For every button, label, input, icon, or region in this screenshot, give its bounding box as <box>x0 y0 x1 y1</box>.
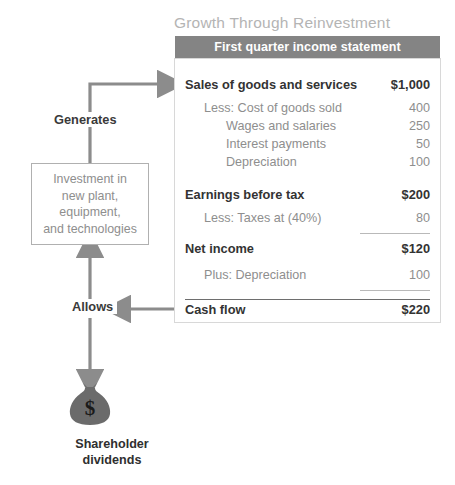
row-value: $1,000 <box>391 77 430 92</box>
row-label: Cash flow <box>185 302 245 317</box>
row-label: Earnings before tax <box>185 187 304 202</box>
row-value: $120 <box>402 241 430 256</box>
dividends-caption: Shareholder dividends <box>58 436 166 468</box>
investment-node: Investment in new plant, equipment, and … <box>31 163 149 245</box>
investment-line-1: new plant, <box>62 188 118 205</box>
dividends-line-0: Shareholder <box>58 436 166 452</box>
row-value: 100 <box>409 268 430 282</box>
row-label: Depreciation <box>226 155 297 169</box>
row-value: 250 <box>409 119 430 133</box>
statement-header: First quarter income statement <box>175 36 440 58</box>
investment-line-3: and technologies <box>43 221 137 238</box>
row-label: Sales of goods and services <box>185 77 357 92</box>
total-rule <box>185 299 430 300</box>
row-label: Less: Cost of goods sold <box>204 101 342 115</box>
row-value: $220 <box>402 302 430 317</box>
table-row: Less: Cost of goods sold 400 <box>174 99 441 116</box>
row-label: Interest payments <box>226 137 326 151</box>
table-row: Net income $120 <box>174 240 441 257</box>
table-row: Depreciation 100 <box>174 153 441 170</box>
dividends-line-1: dividends <box>58 452 166 468</box>
row-value: $200 <box>402 187 430 202</box>
table-row: Sales of goods and services $1,000 <box>174 76 441 93</box>
table-row: Plus: Depreciation 100 <box>174 266 441 283</box>
investment-line-2: equipment, <box>59 204 120 221</box>
diagram-canvas: Growth Through Reinvestment First quarte… <box>0 0 455 485</box>
row-label: Plus: Depreciation <box>204 268 306 282</box>
table-row: Less: Taxes at (40%) 80 <box>174 209 441 226</box>
row-label: Less: Taxes at (40%) <box>204 211 321 225</box>
table-row: Cash flow $220 <box>174 301 441 318</box>
svg-text:$: $ <box>85 396 96 420</box>
table-row: Interest payments 50 <box>174 135 441 152</box>
table-row: Wages and salaries 250 <box>174 117 441 134</box>
flow-label-generates: Generates <box>50 112 121 127</box>
income-statement-rows: Sales of goods and services $1,000 Less:… <box>174 58 441 323</box>
subtotal-rule <box>360 233 430 234</box>
flow-label-allows: Allows <box>68 299 117 314</box>
money-bag-icon: $ <box>60 380 120 426</box>
row-label: Wages and salaries <box>226 119 336 133</box>
page-title: Growth Through Reinvestment <box>174 14 454 34</box>
row-label: Net income <box>185 241 254 256</box>
investment-line-0: Investment in <box>53 171 127 188</box>
row-value: 100 <box>409 155 430 169</box>
table-row: Earnings before tax $200 <box>174 186 441 203</box>
subtotal-rule <box>360 290 430 291</box>
row-value: 50 <box>416 137 430 151</box>
row-value: 80 <box>416 211 430 225</box>
row-value: 400 <box>409 101 430 115</box>
